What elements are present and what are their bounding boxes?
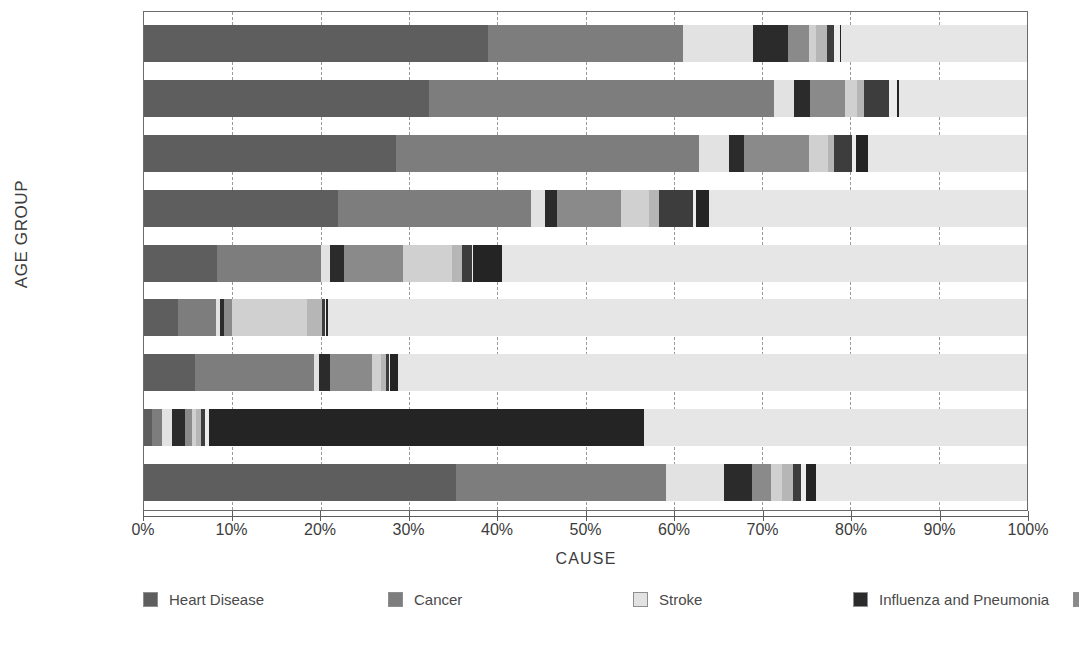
bar-segment[interactable] [649, 190, 659, 227]
bar-segment[interactable] [452, 245, 462, 282]
bar-segment[interactable] [195, 354, 313, 391]
legend-item[interactable]: Stroke [633, 592, 853, 607]
x-axis-tick [409, 511, 410, 521]
bar-segment[interactable] [152, 409, 162, 446]
bar-segment[interactable] [771, 464, 782, 501]
bar-segment[interactable] [621, 190, 649, 227]
legend-item[interactable]: Cancer [388, 592, 633, 607]
bar-segment[interactable] [209, 409, 643, 446]
bar-segment[interactable] [144, 354, 195, 391]
bar-segment[interactable] [809, 135, 828, 172]
bar-segment[interactable] [845, 80, 856, 117]
bar-segment[interactable] [144, 464, 456, 501]
bar-segment[interactable] [753, 25, 787, 62]
bar-segment[interactable] [144, 409, 152, 446]
bar-segment[interactable] [557, 190, 621, 227]
bar-segment[interactable] [473, 245, 501, 282]
bar-segment[interactable] [816, 25, 827, 62]
bar-segment[interactable] [144, 25, 488, 62]
bar-row[interactable] [144, 80, 1027, 117]
bar-segment[interactable] [456, 464, 666, 501]
bar-segment[interactable] [372, 354, 381, 391]
bar-segment[interactable] [809, 25, 816, 62]
bar-segment[interactable] [328, 299, 1026, 336]
x-axis-tick [143, 511, 144, 521]
bar-segment[interactable] [390, 354, 398, 391]
bar-row[interactable] [144, 464, 1027, 501]
bar-segment[interactable] [531, 190, 545, 227]
bar-segment[interactable] [729, 135, 745, 172]
bar-row[interactable] [144, 299, 1027, 336]
bar-segment[interactable] [889, 80, 897, 117]
bar-row[interactable] [144, 354, 1027, 391]
bar-segment[interactable] [724, 464, 752, 501]
bar-segment[interactable] [330, 354, 372, 391]
bar-segment[interactable] [144, 190, 338, 227]
bar-row[interactable] [144, 409, 1027, 446]
bar-segment[interactable] [644, 409, 1027, 446]
x-axis-tick [586, 511, 587, 521]
bar-segment[interactable] [683, 25, 754, 62]
bar-segment[interactable] [344, 245, 403, 282]
bar-segment[interactable] [144, 299, 178, 336]
bar-segment[interactable] [502, 245, 1027, 282]
bar-segment[interactable] [816, 464, 1027, 501]
bar-segment[interactable] [709, 190, 1027, 227]
x-axis-tick-label: 30% [392, 521, 424, 539]
bar-segment[interactable] [307, 299, 322, 336]
bar-row[interactable] [144, 135, 1027, 172]
bar-row[interactable] [144, 190, 1027, 227]
bar-segment[interactable] [144, 245, 217, 282]
bar-segment[interactable] [398, 354, 1027, 391]
x-axis-tick [497, 511, 498, 521]
bar-segment[interactable] [666, 464, 724, 501]
bar-segment[interactable] [856, 135, 868, 172]
bar-segment[interactable] [782, 464, 793, 501]
legend-item-label: Stroke [659, 592, 702, 607]
bar-segment[interactable] [162, 409, 173, 446]
bar-segment[interactable] [338, 190, 530, 227]
bar-segment[interactable] [744, 135, 808, 172]
bar-segment[interactable] [545, 190, 557, 227]
bar-segment[interactable] [793, 464, 801, 501]
bar-segment[interactable] [396, 135, 699, 172]
bar-segment[interactable] [696, 190, 709, 227]
bar-segment[interactable] [794, 80, 810, 117]
bar-segment[interactable] [488, 25, 682, 62]
bar-segment[interactable] [659, 190, 693, 227]
bar-segment[interactable] [321, 245, 330, 282]
legend-swatch-icon [633, 592, 648, 607]
bar-segment[interactable] [217, 245, 321, 282]
bar-segment[interactable] [172, 409, 184, 446]
bar-segment[interactable] [810, 80, 845, 117]
bar-row[interactable] [144, 245, 1027, 282]
bar-segment[interactable] [774, 80, 794, 117]
legend-item[interactable]: Heart Disease [143, 592, 388, 607]
bar-segment[interactable] [178, 299, 217, 336]
bar-segment[interactable] [319, 354, 330, 391]
bar-segment[interactable] [330, 245, 343, 282]
bar-segment[interactable] [834, 135, 853, 172]
legend-item[interactable]: Influenza and Pneumonia [853, 592, 1073, 607]
bar-segment[interactable] [841, 25, 1026, 62]
legend-swatch-icon [853, 592, 868, 607]
x-axis-tick-label: 20% [304, 521, 336, 539]
bar-segment[interactable] [429, 80, 773, 117]
bar-segment[interactable] [232, 299, 307, 336]
bar-row[interactable] [144, 25, 1027, 62]
bar-segment[interactable] [403, 245, 452, 282]
bar-segment[interactable] [144, 80, 429, 117]
bar-segment[interactable] [699, 135, 729, 172]
bar-segment[interactable] [857, 80, 865, 117]
bar-segment[interactable] [899, 80, 1027, 117]
legend-item[interactable]: Diabetes [1073, 592, 1079, 607]
bar-segment[interactable] [868, 135, 1027, 172]
bar-segment[interactable] [224, 299, 232, 336]
bar-segment[interactable] [462, 245, 472, 282]
bar-segment[interactable] [144, 135, 396, 172]
bar-segment[interactable] [864, 80, 889, 117]
bar-segment[interactable] [752, 464, 771, 501]
bar-segment[interactable] [185, 409, 192, 446]
bar-segment[interactable] [806, 464, 816, 501]
bar-segment[interactable] [788, 25, 809, 62]
